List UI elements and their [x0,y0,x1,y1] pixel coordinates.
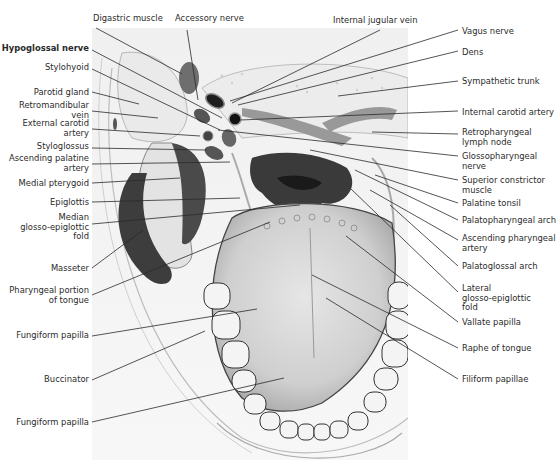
label-glossopharyngeal-nerve: Glossopharyngeal nerve [462,152,537,171]
label-masseter: Masseter [51,264,89,274]
label-sympathetic-trunk: Sympathetic trunk [462,77,540,87]
label-epiglottis: Epiglottis [50,198,89,208]
label-parotid-gland: Parotid gland [34,88,89,98]
label-ascending-palatine-artery: Ascending palatine artery [9,154,89,173]
label-superior-constrictor-muscle: Superior constrictor muscle [462,176,545,195]
label-hypoglossal-nerve: Hypoglossal nerve [2,44,89,54]
label-vallate-papilla: Vallate papilla [462,318,521,328]
label-fungiform-papilla-lower: Fungiform papilla [16,418,89,428]
label-stylohyoid: Stylohyoid [45,63,89,73]
label-palatine-tonsil: Palatine tonsil [462,199,521,209]
label-palatopharyngeal-arch: Palatopharyngeal arch [462,216,556,226]
label-internal-carotid-artery: Internal carotid artery [462,108,554,118]
label-median-glosso-epiglottic-fold: Median glosso-epiglottic fold [20,213,89,242]
label-vagus-nerve: Vagus nerve [462,27,514,37]
label-buccinator: Buccinator [44,375,89,385]
label-internal-jugular-vein: Internal jugular vein [333,16,418,26]
label-pharyngeal-portion-of-tongue: Pharyngeal portion of tongue [9,286,89,305]
label-styloglossus: Styloglossus [37,142,89,152]
label-external-carotid-artery: External carotid artery [23,119,89,138]
label-ascending-pharyngeal-artery: Ascending pharyngeal artery [462,234,555,253]
label-medial-pterygoid: Medial pterygoid [19,179,89,189]
label-palatoglossal-arch: Palatoglossal arch [462,262,538,272]
anatomical-illustration [92,28,408,460]
label-retropharyngeal-lymph-node: Retropharyngeal lymph node [462,128,532,147]
label-lateral-glosso-epiglottic-fold: Lateral glosso-epiglottic fold [462,284,531,313]
label-digastric-muscle: Digastric muscle [93,14,163,24]
label-accessory-nerve: Accessory nerve [175,14,244,24]
label-dens: Dens [462,48,483,58]
label-filiform-papillae: Filiform papillae [462,375,528,385]
label-fungiform-papilla-upper: Fungiform papilla [16,331,89,341]
label-raphe-of-tongue: Raphe of tongue [462,344,531,354]
